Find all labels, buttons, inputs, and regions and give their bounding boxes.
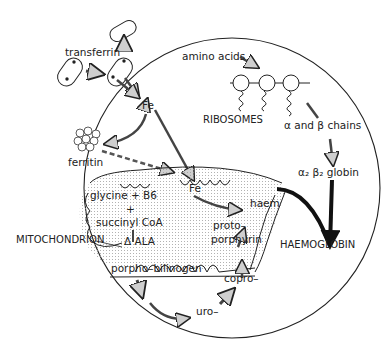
ferritin-label: ferritin — [68, 157, 103, 168]
haemoglobin-synthesis-diagram: transferrin Fe ferritin amino acids RIBO… — [0, 0, 385, 345]
ferritin-icon — [74, 127, 100, 151]
transferrin-label: transferrin — [65, 47, 120, 58]
globin-label: α₂ β₂ globin — [298, 167, 359, 178]
ribosomes-icon — [230, 75, 310, 116]
iron-label: Fe — [142, 100, 154, 111]
amino-acids-label: amino acids — [182, 51, 245, 62]
mitochondrion-label: MITOCHONDRION — [16, 235, 104, 245]
ribosomes-label: RIBOSOMES — [203, 115, 263, 125]
protoporphyrin-label-1: proto– — [213, 220, 246, 231]
glycine-label: glycine + B6 — [90, 190, 157, 201]
transferrin-free-icon — [54, 55, 86, 90]
uro-label: uro– — [196, 306, 218, 317]
haem-label: haem — [250, 198, 280, 209]
alpha-beta-chains-label: α and β chains — [284, 120, 361, 131]
transferrin-bound-icon — [104, 55, 136, 90]
porphobilinogen-label: porpho–bilinogen — [111, 263, 202, 274]
ala-label: Δ ALA — [124, 236, 155, 247]
protoporphyrin-label-2: porphyrin — [211, 234, 262, 245]
haemoglobin-label: HAEMOGLOBIN — [280, 240, 355, 250]
copro-label: copro– — [224, 273, 259, 284]
mito-iron-label: Fe — [189, 183, 201, 194]
succinyl-coa-label: succinyl CoA — [96, 217, 163, 228]
plus-label: + — [126, 204, 135, 215]
